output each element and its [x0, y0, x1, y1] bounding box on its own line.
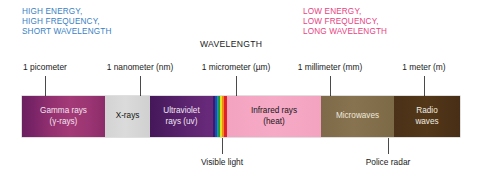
wavelength-heading: WAVELENGTH — [200, 39, 262, 49]
band-uv-line2: rays (uv) — [163, 117, 199, 127]
scale-label-2: 1 micrometer (µm) — [202, 62, 271, 72]
band-gamma-line1: Gamma rays — [40, 106, 87, 115]
spectrum-diagram: HIGH ENERGY, HIGH FREQUENCY, SHORT WAVEL… — [0, 0, 479, 176]
band-microwaves-line1: Microwaves — [336, 111, 379, 120]
band-infrared: Infrared rays (heat) — [227, 96, 321, 137]
scale-tick-3 — [330, 76, 331, 96]
band-radio-line2: waves — [415, 117, 438, 127]
callout-line-1 — [388, 138, 389, 154]
callout-line-0 — [222, 138, 223, 154]
callout-label-1: Police radar — [366, 157, 411, 167]
band-label-x-rays: X-rays — [116, 111, 140, 121]
band-label-radio-waves: Radio waves — [415, 106, 438, 127]
scale-tick-0 — [45, 76, 46, 96]
scale-tick-2 — [236, 76, 237, 96]
band-gamma-rays: Gamma rays (γ-rays) — [22, 96, 105, 137]
spectrum-bar: Gamma rays (γ-rays) X-rays Ultraviolet r… — [22, 96, 460, 137]
band-label-infrared: Infrared rays (heat) — [251, 106, 297, 127]
high-energy-heading: HIGH ENERGY, HIGH FREQUENCY, SHORT WAVEL… — [22, 7, 111, 38]
scale-label-1: 1 nanometer (nm) — [107, 62, 174, 72]
band-infrared-line1: Infrared rays — [251, 106, 297, 115]
band-radio-waves: Radio waves — [394, 96, 460, 137]
scale-tick-4 — [424, 76, 425, 96]
band-x-rays: X-rays — [105, 96, 150, 137]
band-radio-line1: Radio — [416, 106, 437, 115]
band-xray-line1: X-rays — [116, 111, 140, 120]
band-microwaves: Microwaves — [321, 96, 394, 137]
band-label-ultraviolet: Ultraviolet rays (uv) — [163, 106, 199, 127]
band-label-microwaves: Microwaves — [336, 111, 379, 121]
low-energy-heading: LOW ENERGY, LOW FREQUENCY, LONG WAVELENG… — [303, 7, 387, 38]
band-gamma-line2: (γ-rays) — [40, 117, 87, 127]
band-uv-line1: Ultraviolet — [163, 106, 199, 115]
scale-label-4: 1 meter (m) — [402, 62, 445, 72]
band-infrared-line2: (heat) — [251, 117, 297, 127]
scale-tick-1 — [140, 76, 141, 96]
band-label-gamma-rays: Gamma rays (γ-rays) — [40, 106, 87, 127]
band-ultraviolet: Ultraviolet rays (uv) — [150, 96, 213, 137]
callout-label-0: Visible light — [201, 157, 243, 167]
band-visible-light — [213, 96, 227, 137]
scale-label-0: 1 picometer — [23, 62, 67, 72]
scale-label-3: 1 millimeter (mm) — [298, 62, 363, 72]
